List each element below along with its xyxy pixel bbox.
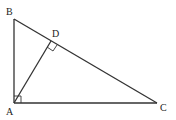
label-a: A [6,106,14,117]
label-d: D [52,28,59,39]
segment-bc [14,19,157,103]
segment-ad [14,41,51,103]
triangle-diagram: B A C D [0,0,176,120]
label-c: C [160,102,167,113]
label-b: B [6,6,13,17]
